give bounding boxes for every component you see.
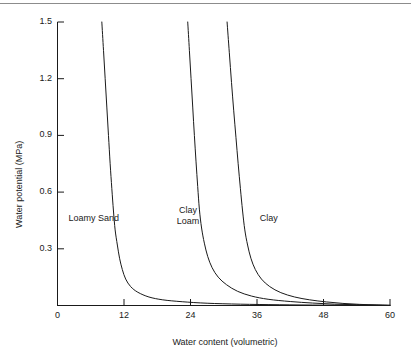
clay-label-line-0: Clay	[260, 213, 278, 224]
clay-loam-label: ClayLoam	[177, 205, 200, 227]
clay-label: Clay	[260, 213, 278, 224]
loamy-sand-label: Loamy Sand	[69, 213, 120, 224]
y-axis-ticks	[58, 22, 65, 249]
curve-loamy-sand	[102, 22, 390, 306]
curve-clay	[227, 22, 390, 305]
axes	[57, 22, 390, 306]
x-tick-label: 60	[370, 310, 410, 320]
loamy-sand-label-line-0: Loamy Sand	[69, 213, 120, 224]
x-tick-label: 36	[237, 310, 277, 320]
clay-loam-label-line-0: Clay	[177, 205, 200, 216]
y-tick-label: 1.2	[16, 73, 52, 83]
x-axis-label: Water content (volumetric)	[110, 337, 340, 347]
y-tick-label: 0.6	[16, 186, 52, 196]
y-tick-label: 1.5	[16, 16, 52, 26]
clay-loam-label-line-1: Loam	[177, 216, 200, 227]
chart-canvas	[0, 0, 411, 361]
x-tick-label: 0	[38, 310, 78, 320]
x-tick-label: 12	[104, 310, 144, 320]
y-tick-label: 0.9	[16, 129, 52, 139]
x-tick-label: 48	[304, 310, 344, 320]
y-tick-label: 0.3	[16, 243, 52, 253]
y-axis-label: Water potential (MPa)	[14, 141, 24, 228]
curve-clay-loam	[188, 22, 390, 305]
soil-water-retention-figure: Water potential (MPa) Water content (vol…	[0, 0, 411, 361]
x-tick-label: 24	[171, 310, 211, 320]
data-curves	[102, 22, 390, 306]
